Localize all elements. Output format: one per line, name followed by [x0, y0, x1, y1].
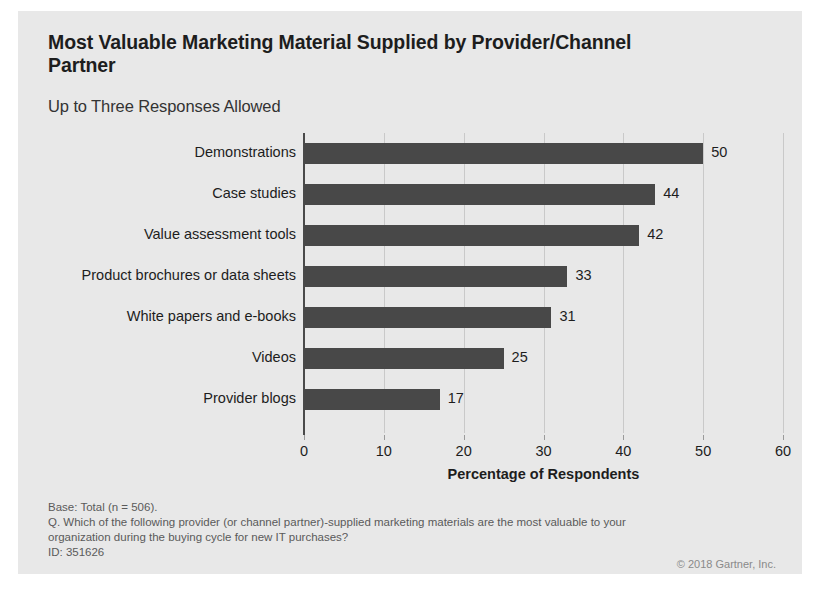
- footnote-block: Base: Total (n = 506). Q. Which of the f…: [48, 500, 668, 560]
- bar-value-label: 25: [512, 349, 528, 365]
- chart-panel: Most Valuable Marketing Material Supplie…: [18, 11, 802, 574]
- x-axis-tick-mark: [304, 435, 305, 440]
- bar-value-label: 33: [575, 267, 591, 283]
- bar: [304, 348, 504, 369]
- x-axis-tick-label: 10: [376, 443, 392, 459]
- plot-area: 50444233312517: [304, 133, 783, 433]
- x-axis-tick-label: 50: [695, 443, 711, 459]
- bar: [304, 307, 551, 328]
- category-axis-labels: DemonstrationsCase studiesValue assessme…: [34, 133, 296, 433]
- x-axis-tick-label: 60: [775, 443, 791, 459]
- bar-value-label: 17: [448, 390, 464, 406]
- category-label: White papers and e-books: [36, 308, 296, 324]
- bar-value-label: 50: [711, 144, 727, 160]
- category-label: Case studies: [36, 185, 296, 201]
- category-label: Value assessment tools: [36, 226, 296, 242]
- bar-row: 50: [304, 133, 783, 174]
- x-axis-tick-label: 20: [456, 443, 472, 459]
- footnote-base: Base: Total (n = 506).: [48, 500, 668, 515]
- bar-row: 25: [304, 338, 783, 379]
- bar-row: 17: [304, 379, 783, 420]
- bar-row: 44: [304, 174, 783, 215]
- category-label: Product brochures or data sheets: [36, 267, 296, 283]
- footnote-question: Q. Which of the following provider (or c…: [48, 515, 668, 545]
- bar-value-label: 31: [559, 308, 575, 324]
- bar-row: 42: [304, 215, 783, 256]
- category-label: Videos: [36, 349, 296, 365]
- bar-value-label: 42: [647, 226, 663, 242]
- bar: [304, 143, 703, 164]
- gridline: [783, 133, 784, 433]
- x-axis-tick-label: 0: [300, 443, 308, 459]
- x-axis-tick-mark: [783, 435, 784, 440]
- category-label: Provider blogs: [36, 390, 296, 406]
- x-axis-tick-mark: [384, 435, 385, 440]
- bar-row: 31: [304, 297, 783, 338]
- x-axis-tick-label: 30: [535, 443, 551, 459]
- bar: [304, 389, 440, 410]
- chart-subtitle: Up to Three Responses Allowed: [48, 97, 648, 116]
- bar: [304, 225, 639, 246]
- x-axis-title: Percentage of Respondents: [304, 466, 783, 482]
- bar: [304, 184, 655, 205]
- bar: [304, 266, 567, 287]
- page-title: Most Valuable Marketing Material Supplie…: [48, 31, 648, 77]
- bar-row: 33: [304, 256, 783, 297]
- x-axis-tick-mark: [464, 435, 465, 440]
- footnote-id: ID: 351626: [48, 545, 668, 560]
- x-axis-tick-mark: [703, 435, 704, 440]
- category-label: Demonstrations: [36, 144, 296, 160]
- chart-page: Most Valuable Marketing Material Supplie…: [0, 0, 820, 593]
- bar-value-label: 44: [663, 185, 679, 201]
- x-axis-tick-mark: [623, 435, 624, 440]
- x-axis-tick-mark: [544, 435, 545, 440]
- x-axis-tick-label: 40: [615, 443, 631, 459]
- copyright-notice: © 2018 Gartner, Inc.: [677, 558, 776, 570]
